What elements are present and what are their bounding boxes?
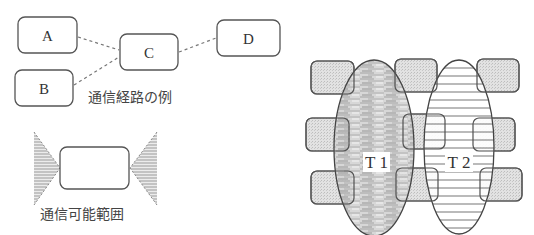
route-example-caption: 通信経路の例 — [88, 89, 172, 105]
node-a-label: A — [42, 28, 53, 44]
team-t2-region: T 2 — [424, 60, 494, 234]
range-device-box — [60, 147, 129, 189]
diagram-canvas: A B C D 通信経路の例 通信可能範囲 — [0, 0, 534, 235]
range-wedge-left — [34, 132, 60, 205]
route-example: A B C D 通信経路の例 — [15, 17, 280, 106]
node-d-label: D — [243, 31, 254, 47]
link-a-c — [78, 37, 119, 50]
node-a: A — [18, 17, 77, 53]
range-example: 通信可能範囲 — [34, 132, 157, 222]
node-b-label: B — [39, 81, 49, 97]
node-c-label: C — [144, 45, 154, 61]
team-t2-label: T 2 — [448, 153, 471, 172]
team-t1-label: T 1 — [365, 153, 388, 172]
node-b: B — [15, 70, 73, 106]
team-diagram: T 1 T 2 — [306, 59, 522, 235]
link-c-d — [179, 38, 216, 52]
node-d: D — [217, 20, 280, 56]
range-example-caption: 通信可能範囲 — [40, 206, 124, 222]
node-c: C — [120, 34, 178, 70]
link-b-c — [74, 57, 119, 85]
team-t1-region: T 1 — [334, 60, 414, 235]
range-wedge-right — [130, 132, 157, 205]
